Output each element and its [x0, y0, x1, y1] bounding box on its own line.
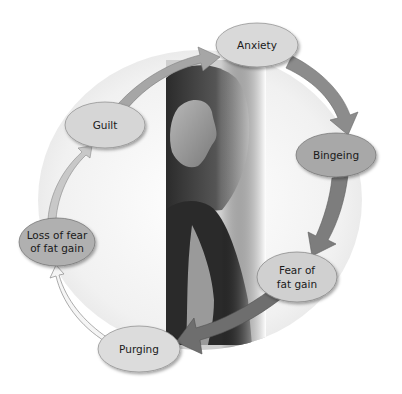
- binge-purge-cycle-diagram: Anxiety Bingeing Fear of fat gain Purgin…: [0, 0, 402, 394]
- node-fear-of-fat-gain: [257, 252, 337, 302]
- node-fear-label-line2: fat gain: [277, 278, 317, 290]
- node-loss-label-line1: Loss of fear: [27, 229, 88, 241]
- node-guilt-label: Guilt: [93, 119, 118, 131]
- node-fear-label-line1: Fear of: [279, 264, 315, 276]
- node-bingeing-label: Bingeing: [313, 149, 359, 161]
- node-loss-label-line2: of fat gain: [30, 242, 84, 254]
- node-purging-label: Purging: [119, 343, 159, 355]
- node-anxiety-label: Anxiety: [237, 39, 277, 51]
